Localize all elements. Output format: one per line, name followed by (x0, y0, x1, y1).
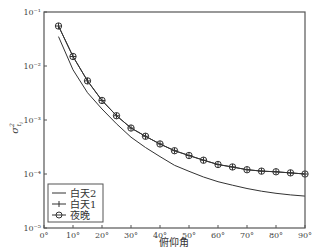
chart: 0°10°20°30°40°50°60°70°80°90°10⁻¹10⁻²10⁻… (0, 0, 319, 251)
x-tick-label: 60° (211, 231, 225, 240)
x-tick-label: 20° (95, 231, 109, 240)
x-tick-label: 80° (269, 231, 283, 240)
y-tick-label: 10⁻¹ (23, 8, 41, 17)
series-line-1 (59, 37, 306, 197)
y-axis-label: σ2ti (8, 122, 24, 134)
legend-label: 白天2 (70, 187, 96, 199)
y-tick-label: 10⁻³ (23, 116, 41, 125)
x-tick-label: 70° (240, 231, 254, 240)
series-line-3 (59, 26, 306, 174)
plot-area (55, 23, 308, 196)
x-tick-label: 30° (124, 231, 138, 240)
svg-text:σ2ti: σ2ti (8, 122, 24, 134)
legend: 白天2白天1夜晚 (48, 184, 103, 222)
legend-label: 夜晚 (70, 209, 90, 221)
y-label-sup: 2 (8, 123, 15, 128)
x-tick-label: 90° (298, 231, 312, 240)
y-tick-label: 10⁻⁴ (23, 170, 41, 179)
x-tick-label: 10° (66, 231, 80, 240)
x-axis-label: 俯仰角 (159, 236, 189, 248)
y-tick-label: 10⁻² (23, 62, 41, 71)
series-line-2 (59, 26, 306, 174)
legend-label: 白天1 (70, 198, 96, 210)
y-tick-label: 10⁻⁵ (23, 224, 41, 233)
